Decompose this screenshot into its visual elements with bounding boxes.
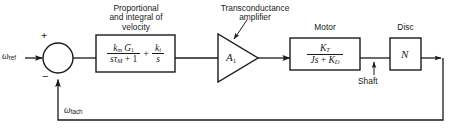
motor-denominator: Js + KD <box>307 55 342 65</box>
pi-term2-numerator: ki <box>152 43 164 54</box>
amplifier-leader-line <box>234 20 247 39</box>
disc-caption: Disc <box>385 23 426 32</box>
motor-expression: KT Js + KD <box>290 38 360 70</box>
pi-term1-numerator: km G1 <box>107 43 140 54</box>
pi-controller-expression: km G1 sτM + 1 + ki s <box>96 35 175 72</box>
amplifier-caption-line-2: amplifier <box>200 13 310 22</box>
input-signal-label: ωref <box>2 51 16 61</box>
sum-negative-sign: − <box>42 70 48 82</box>
amplifier-gain-symbol: A1 <box>226 51 236 64</box>
transconductance-amplifier-triangle <box>218 34 258 82</box>
block-diagram-figure: Proportional and integral of velocity Tr… <box>0 0 455 137</box>
pi-plus-operator: + <box>140 48 152 59</box>
pi-term2-denominator: s <box>152 54 164 64</box>
sum-positive-sign: + <box>41 29 47 41</box>
motor-fraction: KT Js + KD <box>307 43 342 65</box>
summing-junction-circle <box>43 43 73 73</box>
pi-caption-line-3: velocity <box>90 23 182 32</box>
pi-controller-caption: Proportional and integral of velocity <box>90 4 182 32</box>
amplifier-caption: Transconductance amplifier <box>200 4 310 23</box>
motor-numerator: KT <box>307 43 342 54</box>
disc-caption-line-1: Disc <box>385 23 426 32</box>
feedback-signal-label: ωtach <box>64 105 83 115</box>
motor-caption-line-1: Motor <box>290 23 360 32</box>
pi-term1-fraction: km G1 sτM + 1 <box>107 43 140 65</box>
pi-term2-fraction: ki s <box>152 43 164 64</box>
shaft-label: Shaft <box>358 76 378 86</box>
pi-term1-denominator: sτM + 1 <box>107 54 140 64</box>
motor-caption: Motor <box>290 23 360 32</box>
disc-gain-symbol: N <box>401 48 408 60</box>
